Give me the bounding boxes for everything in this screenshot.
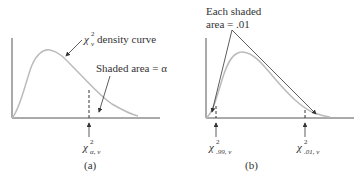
- panel-caption: (b): [245, 159, 258, 171]
- each-shaded-label-line2: area = .01: [206, 18, 250, 30]
- left-critical-value-label: χ2.99, ν: [209, 141, 214, 153]
- left-shaded-arrow: [212, 30, 232, 112]
- critical-value-label: χ2α, ν: [83, 141, 88, 153]
- chi-symbol: χ2ν: [84, 33, 89, 45]
- panel-b: [206, 30, 354, 137]
- shaded-area-label: Shaded area = α: [96, 62, 167, 74]
- density-curve: [12, 50, 138, 118]
- right-critical-value-label: χ2.01, ν: [297, 141, 302, 153]
- panel-a: [12, 38, 160, 137]
- curve-label: χ2ν density curve: [84, 33, 156, 45]
- curve-label-arrow: [66, 40, 82, 56]
- each-shaded-label-line1: Each shaded: [206, 5, 261, 17]
- right-shaded-arrow: [232, 30, 316, 114]
- panel-caption: (a): [84, 159, 96, 171]
